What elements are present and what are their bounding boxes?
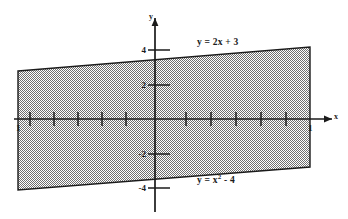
graph-figure: 4 2 -2 -4 1 1 x y y = 2x + 3 y = x2 - 4 xyxy=(0,0,348,219)
lower-curve-label-suffix: - 4 xyxy=(221,175,234,185)
x-tick-label-right: 1 xyxy=(308,124,313,133)
lower-curve-label-prefix: y = x xyxy=(197,175,218,185)
x-axis-arrowhead xyxy=(324,116,332,123)
lower-curve-label: y = x2 - 4 xyxy=(197,176,235,186)
y-tick-label-4: 4 xyxy=(142,46,147,55)
y-tick-label-neg4: -4 xyxy=(139,184,147,193)
plot-canvas xyxy=(0,0,348,219)
upper-curve-label: y = 2x + 3 xyxy=(197,38,238,48)
y-tick-label-2: 2 xyxy=(142,81,147,90)
y-axis-name-label: y xyxy=(149,13,153,21)
x-tick-label-left: 1 xyxy=(16,124,21,133)
y-tick-label-neg2: -2 xyxy=(139,150,147,159)
x-axis-name-label: x xyxy=(334,113,338,121)
